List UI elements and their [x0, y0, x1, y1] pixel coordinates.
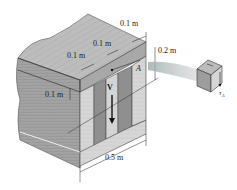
- dim-top-middle-label: 0.1 m: [93, 40, 111, 48]
- dim-top-left-label: 0.1 m: [67, 52, 85, 60]
- dim-base-label: 0.5 m: [105, 154, 123, 162]
- tau-label: τA: [219, 90, 225, 98]
- dim-flange-label: 0.1 m: [45, 91, 63, 99]
- point-a-label: A: [136, 65, 141, 73]
- dim-top-right-label: 0.1 m: [120, 20, 138, 28]
- shear-v-label: V: [107, 84, 113, 92]
- stress-projection: [148, 62, 200, 82]
- dim-height-label: 0.2 m: [158, 47, 176, 55]
